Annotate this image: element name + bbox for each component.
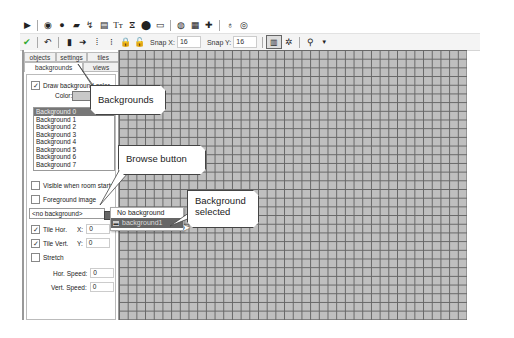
- sound-icon[interactable]: ●: [57, 20, 68, 31]
- toolbar-separator: [170, 20, 171, 31]
- vert-speed-input[interactable]: 0: [90, 282, 114, 292]
- snap-x-input[interactable]: 16: [177, 36, 201, 48]
- game-info-icon[interactable]: ◍: [176, 20, 187, 31]
- confirm-icon[interactable]: ✔: [22, 37, 33, 48]
- snap-y-input[interactable]: 16: [233, 36, 257, 48]
- checkbox-icon: [31, 195, 40, 204]
- lock-icon[interactable]: 🔒: [120, 37, 131, 48]
- zoom-icon[interactable]: ⚲: [305, 37, 316, 48]
- tile-vert-label: Tile Vert.: [43, 240, 68, 247]
- checkbox-icon: [31, 181, 40, 190]
- foreground-label: Foreground image: [43, 196, 96, 203]
- room-canvas-grid[interactable]: [118, 50, 467, 320]
- toolbar-separator: [219, 20, 220, 31]
- tab-objects[interactable]: objects: [24, 52, 56, 62]
- snap-y-label: Snap Y:: [205, 39, 233, 46]
- background-select[interactable]: <no background>: [29, 208, 105, 219]
- callout-browse-button: Browse button: [118, 145, 206, 175]
- toolbar-separator: [58, 37, 59, 48]
- list-item[interactable]: Background 6: [34, 153, 114, 161]
- stretch-label: Stretch: [43, 254, 64, 261]
- main-toolbar: ▶ ◉ ● ▰ ↯ ▤ Tт ⧖ ⬤ ▭ ◍ ▦ ✚ ♁ ◎: [20, 17, 251, 33]
- background-list[interactable]: Background 0 Background 1 Background 2 B…: [33, 107, 115, 171]
- chevron-down-icon[interactable]: ▼: [319, 37, 330, 48]
- room-toolbar: ✔ ↶ ▮ ➜ ⁞ ⁝ 🔒 🔓 Snap X: 16 Snap Y: 16 ▥ …: [20, 33, 480, 51]
- visible-checkbox[interactable]: Visible when room starts: [31, 181, 114, 190]
- menu-item-background1[interactable]: ▬ background1: [111, 218, 183, 228]
- vert-speed-label: Vert. Speed:: [51, 284, 87, 291]
- toolbar-separator: [299, 37, 300, 48]
- sprite-icon[interactable]: ◉: [43, 20, 54, 31]
- hor-speed-field: Hor. Speed: 0: [53, 268, 114, 278]
- callout-line-1: Background: [195, 195, 251, 206]
- list-item[interactable]: Background 1: [34, 116, 114, 124]
- help-icon[interactable]: ♁: [225, 20, 236, 31]
- y-label: Y:: [77, 240, 83, 247]
- tab-backgrounds[interactable]: backgrounds: [24, 62, 83, 72]
- global-settings-icon[interactable]: ▦: [190, 20, 201, 31]
- unlock-icon[interactable]: 🔓: [134, 37, 145, 48]
- x-field: X: 0: [77, 224, 110, 234]
- snap-x-label: Snap X:: [148, 39, 177, 46]
- y-field: Y: 0: [77, 238, 110, 248]
- menu-item-no-background[interactable]: No background: [111, 208, 183, 218]
- callout-line-2: selected: [195, 206, 251, 217]
- checkbox-checked-icon: ✓: [31, 225, 40, 234]
- hor-speed-label: Hor. Speed:: [53, 270, 87, 277]
- timeline-icon[interactable]: ⧖: [127, 20, 138, 31]
- checkbox-checked-icon: ✓: [31, 239, 40, 248]
- tab-settings[interactable]: settings: [56, 52, 88, 62]
- background-dropdown-menu: No background ▬ background1: [110, 207, 184, 231]
- x-input[interactable]: 0: [86, 224, 110, 234]
- list-item[interactable]: Background 3: [34, 131, 114, 139]
- tabs-row-1: objects settings tiles: [24, 52, 119, 62]
- y-input[interactable]: 0: [86, 238, 110, 248]
- list-item[interactable]: Background 7: [34, 161, 114, 169]
- checkbox-icon: [31, 253, 40, 262]
- list-item[interactable]: Background 2: [34, 123, 114, 131]
- sort-x-icon[interactable]: ⁞: [92, 37, 103, 48]
- sort-y-icon[interactable]: ⁝: [106, 37, 117, 48]
- isometric-grid-icon[interactable]: ✲: [284, 37, 295, 48]
- path-icon[interactable]: ↯: [85, 20, 96, 31]
- snap-y-field: Snap Y: 16: [205, 36, 257, 48]
- script-icon[interactable]: ▤: [99, 20, 110, 31]
- tab-tiles[interactable]: tiles: [87, 52, 119, 62]
- callout-background-selected: Background selected: [187, 190, 259, 228]
- grid-toggle-icon[interactable]: ▥: [266, 35, 282, 49]
- about-icon[interactable]: ◎: [239, 20, 250, 31]
- foreground-checkbox[interactable]: Foreground image: [31, 195, 96, 204]
- callout-backgrounds-tab: Backgrounds tab: [90, 85, 166, 115]
- tile-vert-checkbox[interactable]: ✓ Tile Vert.: [31, 239, 68, 248]
- tile-hor-checkbox[interactable]: ✓ Tile Hor.: [31, 225, 67, 234]
- hor-speed-input[interactable]: 0: [90, 268, 114, 278]
- snap-x-field: Snap X: 16: [148, 36, 201, 48]
- x-label: X:: [77, 226, 83, 233]
- toolbar-separator: [262, 37, 263, 48]
- room-icon[interactable]: ▭: [155, 20, 166, 31]
- tab-views[interactable]: views: [83, 62, 119, 72]
- tabs-row-2: backgrounds views: [24, 62, 119, 72]
- toolbar-separator: [37, 20, 38, 31]
- extension-icon[interactable]: ✚: [204, 20, 215, 31]
- undo-icon[interactable]: ↶: [43, 37, 54, 48]
- vert-speed-field: Vert. Speed: 0: [51, 282, 114, 292]
- font-icon[interactable]: Tт: [113, 20, 124, 31]
- menu-item-label: background1: [122, 218, 162, 228]
- list-item[interactable]: Background 5: [34, 146, 114, 154]
- color-label: Color:: [55, 92, 72, 99]
- toolbar-separator: [37, 37, 38, 48]
- object-icon[interactable]: ⬤: [141, 20, 152, 31]
- background-icon[interactable]: ▰: [71, 20, 82, 31]
- shift-icon[interactable]: ➜: [78, 37, 89, 48]
- background-thumbnail-icon: ▬: [113, 221, 119, 226]
- visible-label: Visible when room starts: [43, 182, 114, 189]
- play-icon[interactable]: ▶: [22, 20, 33, 31]
- clear-icon[interactable]: ▮: [64, 37, 75, 48]
- checkbox-checked-icon: ✓: [31, 81, 40, 90]
- stretch-checkbox[interactable]: Stretch: [31, 253, 64, 262]
- list-item[interactable]: Background 4: [34, 138, 114, 146]
- tile-hor-label: Tile Hor.: [43, 226, 67, 233]
